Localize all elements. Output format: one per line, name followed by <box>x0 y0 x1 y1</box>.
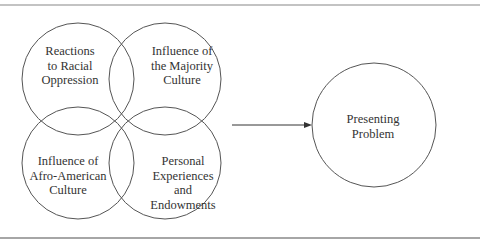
diagram-canvas <box>0 0 494 243</box>
label-line: Presenting <box>347 112 400 127</box>
label-line: and <box>150 183 215 198</box>
label-line: Influence of <box>151 44 213 59</box>
label-line: Culture <box>29 183 106 198</box>
label-line: Afro-American <box>29 169 106 184</box>
label-racial-oppression: Reactions to Racial Oppression <box>42 44 99 88</box>
label-line: Culture <box>151 73 213 88</box>
label-personal-experiences: Personal Experiences and Endowments <box>150 154 215 212</box>
label-line: Influence of <box>29 154 106 169</box>
arrowhead-icon <box>304 122 312 128</box>
label-line: Problem <box>347 126 400 141</box>
label-line: Personal <box>150 154 215 169</box>
label-line: Reactions <box>42 44 99 59</box>
label-line: Oppression <box>42 73 99 88</box>
label-majority-culture: Influence of the Majority Culture <box>151 44 213 88</box>
label-line: to Racial <box>42 59 99 74</box>
label-line: Experiences <box>150 169 215 184</box>
label-line: Endowments <box>150 198 215 213</box>
label-line: the Majority <box>151 59 213 74</box>
label-afro-american-culture: Influence of Afro-American Culture <box>29 154 106 198</box>
label-presenting-problem: Presenting Problem <box>347 112 400 141</box>
